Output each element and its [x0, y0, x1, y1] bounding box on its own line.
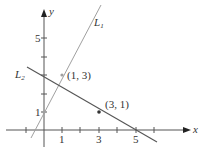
- line-plot: y x 1 3 5 1 5 L1 L2 (1, 3) (3, 1): [0, 0, 203, 152]
- x-axis-label: x: [192, 123, 198, 135]
- x-tick-label-3: 3: [96, 133, 102, 145]
- l2-label: L2: [14, 68, 25, 82]
- point-0-1: [42, 110, 45, 113]
- l1-label: L1: [93, 16, 104, 30]
- y-axis-arrow-icon: [41, 9, 47, 17]
- point-3-1: [97, 110, 101, 114]
- x-tick-label-1: 1: [59, 133, 65, 145]
- x-axis-arrow-icon: [183, 127, 191, 133]
- y-axis-label: y: [48, 5, 54, 17]
- point-1-3: [60, 73, 63, 76]
- y-tick-label-5: 5: [35, 32, 41, 44]
- y-tick-label-1: 1: [35, 106, 41, 118]
- chart: y x 1 3 5 1 5 L1 L2 (1, 3) (3, 1): [0, 0, 203, 152]
- point-label-3-1: (3, 1): [105, 98, 129, 111]
- point-label-1-3: (1, 3): [67, 69, 91, 82]
- line-l2: [27, 67, 157, 142]
- x-tick-label-5: 5: [133, 133, 139, 145]
